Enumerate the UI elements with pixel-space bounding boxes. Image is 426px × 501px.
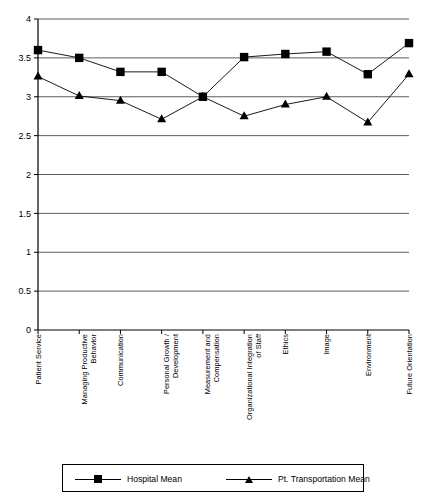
legend-label-hospital-mean: Hospital Mean: [127, 474, 182, 484]
data-point-triangle: [34, 72, 43, 80]
series-line: [38, 74, 409, 122]
x-axis-label: Ethics: [282, 334, 296, 452]
y-axis-tick-label: 4: [26, 14, 31, 24]
x-axis-label: Measurement and Compensation: [204, 334, 218, 452]
data-point-square: [322, 47, 330, 55]
x-axis-label: Patient Service: [35, 334, 49, 452]
y-axis-tick-label: 1: [26, 247, 31, 257]
square-marker-icon: [75, 473, 121, 485]
x-axis-label: Personal Growth / Development: [163, 334, 177, 452]
chart-container: 00.511.522.533.54 Patient ServiceManagin…: [0, 0, 426, 501]
data-point-square: [157, 68, 165, 76]
y-axis-tick-label: 3: [26, 92, 31, 102]
data-point-square: [75, 54, 83, 62]
x-axis-label: Image: [323, 334, 337, 452]
series-hospital-mean: [34, 39, 413, 101]
legend-item-pt-transportation-mean: Pt. Transportation Mean: [226, 465, 370, 493]
x-axis-label: Communication: [117, 334, 131, 452]
x-axis-labels: Patient ServiceManaging Productive Behav…: [0, 334, 426, 452]
chart-legend: Hospital Mean Pt. Transportation Mean: [62, 464, 364, 492]
data-point-square: [240, 53, 248, 61]
data-point-square: [116, 68, 124, 76]
x-axis-label: Managing Productive Behavior: [81, 334, 95, 452]
data-point-square: [405, 39, 413, 47]
series-line: [38, 43, 409, 97]
y-axis-tick-label: 1.5: [18, 209, 31, 219]
data-point-square: [281, 50, 289, 58]
data-point-triangle: [322, 92, 331, 100]
x-axis-label: Environment: [365, 334, 379, 452]
series-pt-transportation-mean: [34, 69, 414, 125]
y-axis-tick-label: 2.5: [18, 131, 31, 141]
y-axis-tick-label: 2: [26, 170, 31, 180]
data-point-square: [34, 46, 42, 54]
triangle-marker-icon: [226, 473, 272, 485]
x-axis-label: Future Orientation: [406, 334, 420, 452]
data-point-triangle: [75, 91, 84, 99]
y-axis-tick-label: 3.5: [18, 53, 31, 63]
legend-item-hospital-mean: Hospital Mean: [75, 465, 182, 493]
data-point-square: [364, 70, 372, 78]
y-axis-tick-label: 0.5: [18, 286, 31, 296]
legend-label-pt-transportation-mean: Pt. Transportation Mean: [278, 474, 370, 484]
data-point-triangle: [405, 69, 414, 77]
x-axis-label: Organizational Integration of Staff: [246, 334, 260, 452]
